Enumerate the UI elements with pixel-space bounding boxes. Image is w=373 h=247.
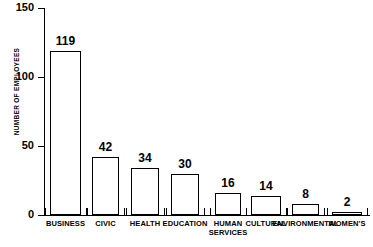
y-tick-mark	[38, 215, 44, 216]
x-tick-mark	[126, 208, 127, 215]
x-axis-category-label: SERVICES	[183, 228, 273, 237]
bar-chart: NUMBER OF EMPLOYEES 150100500 1194234301…	[0, 0, 373, 247]
y-tick-label: 100	[8, 71, 34, 82]
bar	[292, 204, 319, 215]
bar	[332, 212, 362, 215]
bar-value-label: 2	[320, 196, 373, 208]
x-axis-line	[44, 215, 370, 216]
bar	[251, 196, 281, 215]
bar	[92, 157, 119, 215]
x-tick-mark	[204, 208, 205, 215]
bar	[215, 193, 241, 215]
x-tick-mark	[164, 208, 165, 215]
y-tick-label: 50	[8, 140, 34, 151]
x-tick-mark	[87, 208, 88, 215]
x-tick-mark	[324, 208, 325, 215]
x-tick-mark	[327, 208, 328, 215]
x-tick-mark	[246, 208, 247, 215]
x-tick-mark	[210, 208, 211, 215]
x-tick-mark	[166, 208, 167, 215]
x-tick-mark	[367, 208, 368, 215]
bar	[50, 51, 81, 215]
y-tick-label: 150	[8, 2, 34, 13]
bar-value-label: 30	[159, 158, 211, 170]
y-tick-mark	[38, 146, 44, 147]
bar-value-label: 119	[38, 35, 93, 47]
x-tick-mark	[287, 208, 288, 215]
bar	[131, 168, 159, 215]
y-tick-mark	[38, 8, 44, 9]
bar	[171, 174, 199, 215]
x-axis-category-label: WOMEN'S	[302, 219, 373, 228]
x-tick-mark	[124, 208, 125, 215]
y-tick-mark	[38, 77, 44, 78]
x-tick-mark	[45, 208, 46, 215]
y-axis-title: NUMBER OF EMPLOYEES	[13, 32, 20, 152]
